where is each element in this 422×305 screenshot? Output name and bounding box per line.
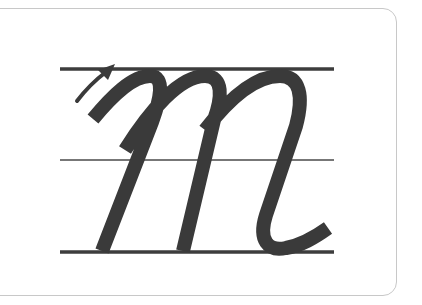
cursive-letter-m: [93, 76, 328, 251]
handwriting-guide: [0, 0, 422, 305]
